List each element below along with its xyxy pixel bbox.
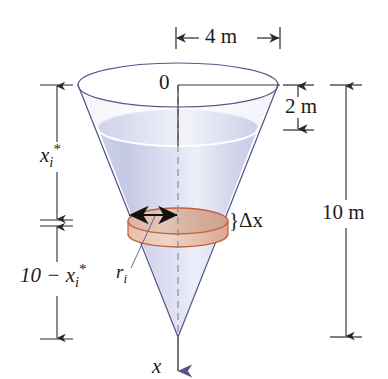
label-total-height: 10 m — [322, 202, 365, 223]
cone-diagram-svg — [0, 0, 388, 379]
label-slice-radius-subscript: i — [123, 271, 127, 286]
label-lift-distance-expression: 10 − x — [20, 263, 75, 287]
label-slice-radius: ri — [116, 262, 127, 285]
slice-thickness-delta: Δx — [239, 208, 263, 232]
label-slice-depth-symbol: x — [40, 143, 49, 167]
label-slice-depth: xi* — [40, 142, 61, 170]
label-slice-depth-superscript: * — [53, 141, 61, 157]
figure-canvas: 4 m 0 2 m 10 m xi* 10 − xi* ri }Δx x — [0, 0, 388, 379]
label-x-axis: x — [152, 356, 161, 377]
label-origin: 0 — [159, 72, 170, 93]
label-lift-distance-superscript: * — [79, 261, 87, 277]
label-slice-thickness: }Δx — [229, 210, 263, 231]
label-top-width: 4 m — [205, 26, 237, 47]
slice-thickness-brace: } — [229, 208, 239, 232]
label-lift-distance: 10 − xi* — [20, 262, 87, 290]
label-water-depth: 2 m — [285, 96, 317, 117]
